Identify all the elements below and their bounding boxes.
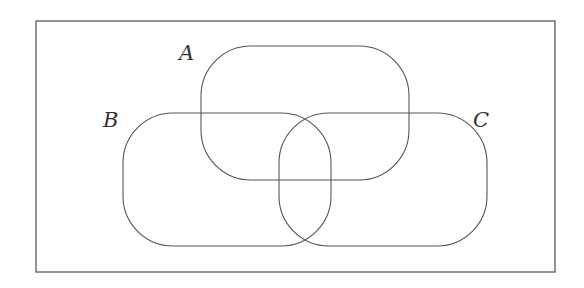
set-c-label: C — [473, 108, 489, 132]
set-a-label: A — [177, 41, 194, 65]
universe-frame — [36, 21, 555, 272]
venn-diagram: A B C — [0, 0, 584, 288]
set-b-label: B — [102, 108, 118, 132]
